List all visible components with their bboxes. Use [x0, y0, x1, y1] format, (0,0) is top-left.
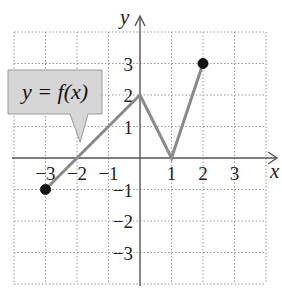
endpoint-dot: [41, 185, 51, 195]
y-tick-label: −1: [113, 180, 133, 201]
y-tick-label: −3: [113, 243, 133, 264]
y-tick-label: 1: [124, 117, 134, 138]
x-tick-label: 2: [198, 163, 208, 184]
x-tick-label: 3: [230, 163, 240, 184]
axes: xy: [12, 5, 280, 286]
y-axis-label: y: [118, 5, 130, 29]
function-label-callout: y = f(x): [8, 70, 102, 142]
y-tick-label: 3: [124, 54, 134, 75]
function-graph: xy −3−2−1123−3−2−1123 y = f(x): [0, 0, 282, 299]
x-axis-label: x: [269, 159, 280, 183]
y-tick-label: −2: [113, 211, 133, 232]
callout-text: y = f(x): [20, 79, 88, 104]
x-tick-label: 1: [167, 163, 177, 184]
endpoint-dot: [198, 59, 208, 69]
